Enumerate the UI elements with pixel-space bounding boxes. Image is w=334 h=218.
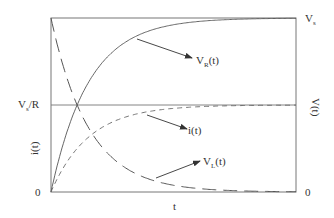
annotation-arrow-vl — [156, 161, 200, 178]
left-axis-label: i(t) — [28, 141, 41, 155]
left-tick-vs-over-r: Vs/R — [18, 98, 40, 113]
right-tick-vs: Vs — [305, 12, 316, 27]
label-vl: VL(t) — [203, 155, 226, 170]
x-axis-label: t — [173, 200, 176, 212]
right-tick-zero: 0 — [305, 186, 311, 198]
label-vr: VR(t) — [196, 54, 219, 69]
right-axis-label: V(t) — [309, 98, 322, 117]
left-tick-zero: 0 — [35, 186, 41, 198]
label-i: i(t) — [188, 124, 202, 137]
rl-circuit-chart: VR(t) i(t) VL(t) Vs/R 0 i(t) Vs 0 V(t) t — [0, 0, 334, 218]
curve-i — [51, 105, 296, 192]
annotation-arrow-i — [147, 115, 187, 129]
annotation-arrow-vr — [137, 39, 192, 58]
